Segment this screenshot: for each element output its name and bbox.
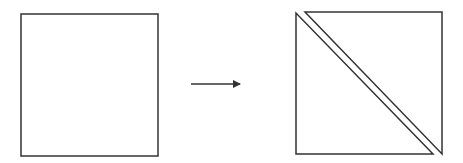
diagram-canvas [0, 0, 463, 163]
lower-left-triangle [296, 13, 433, 154]
original-square [21, 14, 158, 156]
upper-right-triangle [305, 12, 442, 154]
